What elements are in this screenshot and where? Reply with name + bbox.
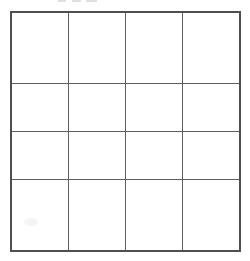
grid-body (11, 12, 240, 251)
remnant-mark-2 (72, 0, 81, 2)
grid-cell-r4c3[interactable] (126, 179, 183, 251)
grid-cell-r3c3[interactable] (126, 131, 183, 179)
cell-value (126, 84, 182, 131)
grid-cell-r2c4[interactable] (183, 84, 240, 132)
grid-cell-r1c3[interactable] (126, 12, 183, 84)
cell-value (12, 180, 68, 250)
grid-cell-r2c3[interactable] (126, 84, 183, 132)
grid-cell-r4c2[interactable] (68, 179, 125, 251)
cell-value (126, 132, 182, 179)
cell-value (69, 13, 125, 83)
grid-cell-r4c1[interactable] (11, 179, 68, 251)
cell-value (12, 13, 68, 83)
grid-cell-r1c4[interactable] (183, 12, 240, 84)
cell-value (183, 132, 239, 179)
cell-value (12, 84, 68, 131)
table-row (11, 131, 240, 179)
cell-value (183, 13, 239, 83)
grid-cell-r3c1[interactable] (11, 131, 68, 179)
remnant-mark-1 (58, 0, 66, 2)
cell-value (183, 180, 239, 250)
cell-value (12, 132, 68, 179)
table-row (11, 12, 240, 84)
grid-cell-r1c1[interactable] (11, 12, 68, 84)
cell-value (69, 132, 125, 179)
cropped-text-remnant (58, 0, 106, 3)
cell-value (69, 180, 125, 250)
table-row (11, 84, 240, 132)
grid-cell-r1c2[interactable] (68, 12, 125, 84)
cell-value (183, 84, 239, 131)
grid-cell-r4c4[interactable] (183, 179, 240, 251)
cell-value (126, 180, 182, 250)
grid-cell-r3c2[interactable] (68, 131, 125, 179)
cell-value (69, 84, 125, 131)
grid-cell-r2c2[interactable] (68, 84, 125, 132)
scanned-page (0, 0, 250, 261)
grid-cell-r3c4[interactable] (183, 131, 240, 179)
grid-cell-r2c1[interactable] (11, 84, 68, 132)
cell-value (126, 13, 182, 83)
remnant-mark-3 (86, 0, 97, 2)
table-row (11, 179, 240, 251)
grid-table (10, 11, 241, 252)
